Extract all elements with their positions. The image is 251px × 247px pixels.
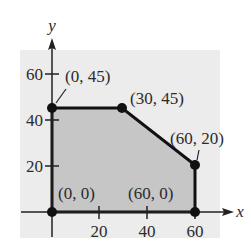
vertex-60-0 xyxy=(190,207,200,217)
vertex-30-45 xyxy=(117,103,127,113)
x-tick-40: 40 xyxy=(139,222,156,241)
label-60-20: (60, 20) xyxy=(170,129,224,148)
x-tick-20: 20 xyxy=(91,222,108,241)
vertex-0-0 xyxy=(47,207,57,217)
label-30-45: (30, 45) xyxy=(130,89,184,108)
feasible-region-chart: 20 40 60 20 40 60 x y (0, 45) (30, 45) (… xyxy=(0,0,251,247)
y-tick-20: 20 xyxy=(26,157,43,176)
vertex-60-20 xyxy=(190,160,200,170)
y-tick-60: 60 xyxy=(26,65,43,84)
y-axis-label: y xyxy=(46,16,56,35)
label-0-45: (0, 45) xyxy=(65,67,110,86)
y-tick-40: 40 xyxy=(26,111,43,130)
label-0-0: (0, 0) xyxy=(58,184,95,203)
x-axis-label: x xyxy=(235,202,244,221)
x-tick-60: 60 xyxy=(187,222,204,241)
label-60-0: (60, 0) xyxy=(128,184,173,203)
vertex-0-45 xyxy=(47,103,57,113)
